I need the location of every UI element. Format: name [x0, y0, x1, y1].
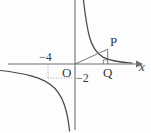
point-label-q: Q: [103, 66, 112, 79]
curve-branch-quadrant-three: [1, 71, 70, 132]
graph-canvas: [0, 0, 151, 133]
point-label-p: P: [110, 35, 117, 48]
x-axis-label: x: [139, 60, 145, 73]
tick-label-x-neg-four: −4: [39, 51, 52, 63]
origin-label: O: [62, 66, 71, 79]
graph-figure: −4 O −2 P Q x: [0, 0, 151, 133]
tick-label-y-neg-two: −2: [76, 72, 89, 84]
right-angle-marker-q: [103, 60, 107, 64]
